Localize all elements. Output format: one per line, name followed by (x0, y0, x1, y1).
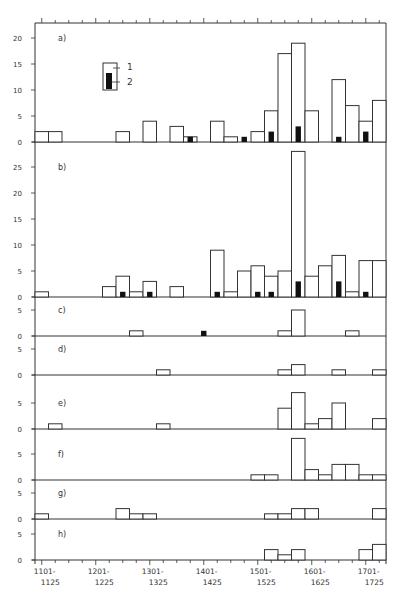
bar-filled (188, 137, 193, 142)
y-tick-label: 5 (18, 490, 22, 498)
panel-c: 05c) (18, 306, 386, 341)
x-tick-label: 1125 (41, 578, 60, 587)
bar-open (305, 509, 319, 519)
y-tick-label: 0 (18, 557, 22, 565)
y-tick-label: 10 (13, 242, 22, 250)
bar-open (224, 137, 238, 142)
y-tick-label: 5 (18, 307, 22, 315)
bar-open (332, 403, 346, 429)
bar-filled (242, 137, 247, 142)
bar-open (373, 544, 387, 560)
panel-label: e) (58, 399, 66, 408)
panel-label: h) (58, 530, 66, 539)
bar-open (265, 550, 279, 560)
bar-filled (296, 126, 301, 142)
x-tick-label: 1201- (88, 567, 110, 576)
legend-label-1: 1 (127, 62, 133, 72)
bar-open (143, 121, 157, 142)
bar-open (278, 370, 292, 375)
panel-label: f) (58, 450, 64, 459)
x-tick-label: 1325 (149, 578, 168, 587)
y-tick-label: 20 (13, 190, 22, 198)
x-tick-label: 1601- (304, 567, 326, 576)
y-tick-label: 0 (18, 516, 22, 524)
bar-open (35, 132, 49, 142)
bar-open (35, 514, 49, 519)
bar-open (278, 408, 292, 429)
bar-open (332, 80, 346, 142)
y-tick-label: 25 (13, 164, 22, 172)
bar-open (359, 261, 373, 297)
bar-filled (269, 132, 274, 142)
bar-open (292, 438, 306, 480)
x-tick-label: 1401- (196, 567, 218, 576)
legend: 12 (103, 62, 133, 90)
bar-open (359, 550, 373, 560)
bar-open (116, 509, 130, 519)
bar-filled (296, 281, 301, 297)
bar-open (251, 475, 265, 480)
panel-f: 05f) (18, 438, 386, 484)
bar-open (130, 292, 144, 297)
x-tick-label: 1725 (365, 578, 384, 587)
bar-filled (120, 292, 125, 297)
bar-open (346, 292, 360, 297)
bar-open (278, 555, 292, 560)
bar-open (170, 126, 184, 142)
bar-open (359, 475, 373, 480)
bar-open (170, 287, 184, 297)
bar-open (292, 509, 306, 519)
bar-open (305, 424, 319, 429)
y-tick-label: 0 (18, 333, 22, 341)
panel-g: 05g) (18, 489, 386, 524)
panel-h: 05h) (18, 530, 386, 565)
bar-open (224, 292, 238, 297)
x-axis: 1101-11251201-12251301-13251401-14251501… (34, 560, 384, 587)
stacked-histogram-figure: 05101520a)0510152025b)05c)05d)05e)05f)05… (0, 0, 402, 602)
y-tick-label: 0 (18, 477, 22, 485)
y-tick-label: 15 (13, 216, 22, 224)
bar-open (238, 271, 252, 297)
bar-filled (336, 137, 341, 142)
x-tick-label: 1525 (257, 578, 276, 587)
y-tick-label: 20 (13, 35, 22, 43)
x-tick-label: 1101- (34, 567, 56, 576)
bar-open (332, 370, 346, 375)
bar-open (130, 514, 144, 519)
panel-a: 05101520a) (13, 34, 386, 147)
bar-filled (215, 292, 220, 297)
x-tick-label: 1501- (250, 567, 272, 576)
bar-open (346, 331, 360, 336)
bar-open (332, 464, 346, 480)
y-tick-label: 5 (18, 113, 22, 121)
bar-filled (363, 292, 368, 297)
bar-filled (363, 132, 368, 142)
bar-open (49, 132, 63, 142)
y-tick-label: 10 (13, 87, 22, 95)
y-tick-label: 0 (18, 372, 22, 380)
bar-open (292, 550, 306, 560)
bar-filled (336, 281, 341, 297)
bar-open (305, 470, 319, 480)
bar-open (130, 331, 144, 336)
panel-label: a) (58, 34, 66, 43)
bar-open (292, 365, 306, 375)
y-tick-label: 5 (18, 268, 22, 276)
histogram-panels: 05101520a)0510152025b)05c)05d)05e)05f)05… (13, 34, 386, 565)
bar-filled (201, 331, 206, 336)
bar-open (292, 310, 306, 336)
y-tick-label: 5 (18, 451, 22, 459)
panel-label: d) (58, 345, 66, 354)
panel-label: g) (58, 489, 66, 498)
bar-open (373, 475, 387, 480)
bar-filled (269, 292, 274, 297)
bar-open (143, 514, 157, 519)
bar-open (49, 424, 63, 429)
bar-open (373, 261, 387, 297)
bar-open (305, 276, 319, 297)
bar-open (116, 132, 130, 142)
y-tick-label: 0 (18, 426, 22, 434)
panel-e: 05e) (18, 393, 386, 434)
y-tick-label: 5 (18, 400, 22, 408)
x-tick-label: 1301- (142, 567, 164, 576)
